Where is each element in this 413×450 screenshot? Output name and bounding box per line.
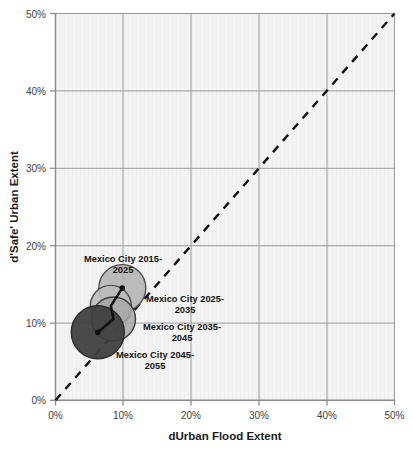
y-tick-label: 10% — [26, 318, 46, 329]
x-tick-label: 20% — [181, 410, 201, 421]
point-label-line2: 2035 — [175, 305, 196, 315]
x-tick-label: 30% — [249, 410, 269, 421]
bubble-chart: 50% 40% 30% 20% 10% 0% 0% 10% 20% 30% 40… — [0, 0, 413, 450]
y-tick-label: 0% — [32, 395, 47, 406]
point-label-line1: Mexico City 2015- — [84, 254, 162, 264]
x-tick-label: 0% — [48, 410, 63, 421]
point-label-line2: 2025 — [113, 265, 134, 275]
point-label-line1: Mexico City 2045- — [116, 350, 194, 360]
y-tick-label: 40% — [26, 86, 46, 97]
y-tick-label: 30% — [26, 163, 46, 174]
y-tick-label: 50% — [26, 9, 46, 20]
x-tick-label: 10% — [113, 410, 133, 421]
point-label-line1: Mexico City 2035- — [143, 322, 221, 332]
y-axis-title: d'Safe' Urban Extent — [8, 151, 20, 263]
point-label-line1: Mexico City 2025- — [146, 294, 224, 304]
x-tick-label: 40% — [317, 410, 337, 421]
point-label-line2: 2055 — [145, 361, 166, 371]
y-tick-label: 20% — [26, 241, 46, 252]
x-tick-label: 50% — [384, 410, 404, 421]
x-axis-title: dUrban Flood Extent — [168, 430, 281, 442]
point-label-line2: 2045 — [172, 333, 193, 343]
